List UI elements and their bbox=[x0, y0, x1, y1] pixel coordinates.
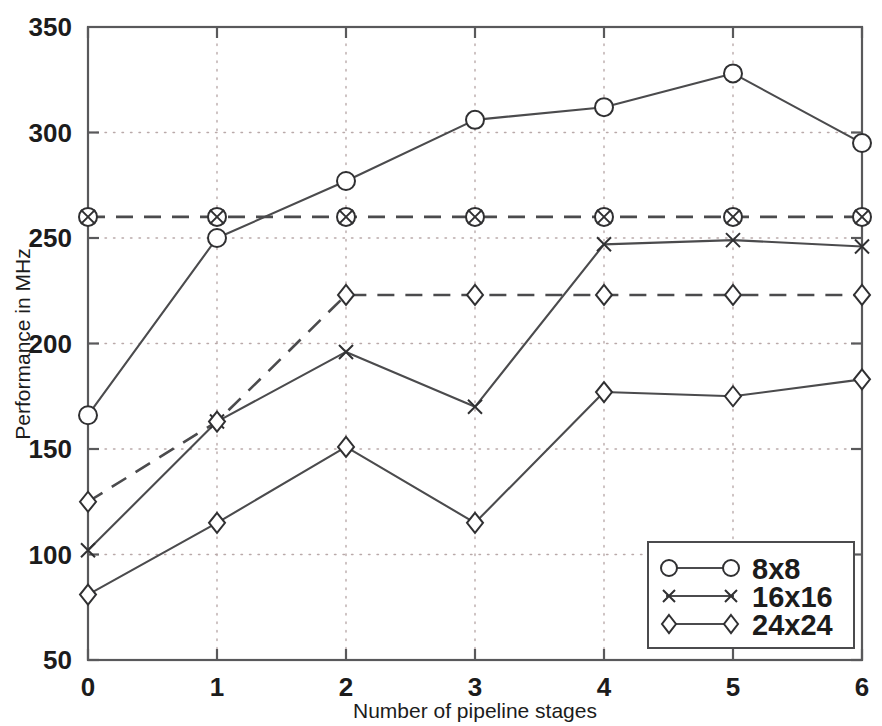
marker-circle bbox=[337, 172, 355, 190]
marker-diamond bbox=[209, 513, 225, 533]
marker-diamond bbox=[467, 285, 483, 305]
marker-diamond bbox=[854, 369, 870, 389]
marker-circle bbox=[208, 229, 226, 247]
chart-figure: 501001502002503003500123456 Performance … bbox=[0, 0, 882, 726]
marker-diamond bbox=[338, 437, 354, 457]
x-tick-label: 3 bbox=[468, 672, 482, 702]
marker-diamond bbox=[725, 386, 741, 406]
legend-label: 24x24 bbox=[752, 609, 833, 641]
marker-circle bbox=[79, 406, 97, 424]
marker-diamond bbox=[725, 285, 741, 305]
x-tick-label: 6 bbox=[855, 672, 869, 702]
y-tick-label: 350 bbox=[29, 12, 72, 42]
x-tick-label: 0 bbox=[81, 672, 95, 702]
series-8x8 bbox=[79, 64, 871, 424]
marker-circle bbox=[724, 64, 742, 82]
y-tick-label: 100 bbox=[29, 540, 72, 570]
y-tick-label: 200 bbox=[29, 329, 72, 359]
marker-circle bbox=[723, 560, 739, 576]
marker-diamond bbox=[80, 585, 96, 605]
chart-legend[interactable]: 8x816x1624x24 bbox=[648, 542, 854, 648]
marker-x bbox=[339, 345, 353, 359]
x-tick-label: 4 bbox=[597, 672, 612, 702]
marker-diamond bbox=[854, 285, 870, 305]
marker-circle bbox=[661, 560, 677, 576]
marker-circle bbox=[853, 134, 871, 152]
y-tick-label: 250 bbox=[29, 223, 72, 253]
x-tick-label: 5 bbox=[726, 672, 740, 702]
y-tick-label: 300 bbox=[29, 118, 72, 148]
marker-circle bbox=[466, 111, 484, 129]
y-tick-label: 150 bbox=[29, 434, 72, 464]
y-axis-title: Performance in MHz bbox=[11, 248, 34, 439]
marker-diamond bbox=[596, 285, 612, 305]
x-tick-label: 1 bbox=[210, 672, 224, 702]
series-8x8-reference bbox=[79, 208, 871, 226]
y-tick-label: 50 bbox=[43, 645, 72, 675]
x-axis-title: Number of pipeline stages bbox=[353, 699, 597, 722]
x-tick-label: 2 bbox=[339, 672, 353, 702]
performance-line-chart: 501001502002503003500123456 Performance … bbox=[0, 0, 882, 726]
marker-circle bbox=[595, 98, 613, 116]
marker-diamond bbox=[80, 492, 96, 512]
